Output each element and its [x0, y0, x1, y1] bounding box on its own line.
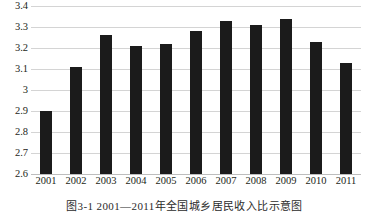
- bar-2001: [40, 111, 52, 174]
- x-axis-tick-label: 2011: [331, 176, 361, 187]
- x-axis-tick-label: 2007: [211, 176, 241, 187]
- chart-screenshot: 3.4 3.3 3.2 3.1 3 2.9 2.8 2.7 2.6 200120…: [0, 0, 369, 214]
- x-axis-tick-label: 2004: [121, 176, 151, 187]
- x-axis-tick-label: 2006: [181, 176, 211, 187]
- y-axis-tick-label: 2.6: [0, 169, 28, 180]
- bar-2006: [190, 31, 202, 174]
- x-axis-tick-label: 2008: [241, 176, 271, 187]
- bar-2010: [310, 42, 322, 174]
- y-axis-tick-label: 3.4: [0, 1, 28, 12]
- y-axis-tick-label: 2.9: [0, 106, 28, 117]
- x-axis-labels: 2001200220032004200520062007200820092010…: [31, 176, 361, 192]
- y-axis-tick-label: 2.8: [0, 127, 28, 138]
- y-axis-tick-label: 2.7: [0, 148, 28, 159]
- bar-2007: [220, 21, 232, 174]
- bar-2004: [130, 46, 142, 174]
- y-axis-tick-label: 3.1: [0, 64, 28, 75]
- bar-2008: [250, 25, 262, 174]
- y-axis-tick-label: 3: [0, 85, 28, 96]
- bar-2009: [280, 19, 292, 174]
- x-axis-tick-label: 2002: [61, 176, 91, 187]
- gridline: [31, 27, 361, 28]
- bar-2002: [70, 67, 82, 174]
- y-axis-labels: 3.4 3.3 3.2 3.1 3 2.9 2.8 2.7 2.6: [0, 0, 28, 196]
- bar-2011: [340, 63, 352, 174]
- figure-caption: 图3-1 2001—2011年全国城乡居民收入比示意图: [0, 199, 369, 214]
- gridline: [31, 6, 361, 7]
- x-axis-tick-label: 2009: [271, 176, 301, 187]
- bar-2005: [160, 44, 172, 174]
- x-axis-tick-label: 2001: [31, 176, 61, 187]
- plot-area: [31, 6, 361, 174]
- y-axis-tick-label: 3.2: [0, 43, 28, 54]
- x-axis-tick-label: 2005: [151, 176, 181, 187]
- bar-chart: 3.4 3.3 3.2 3.1 3 2.9 2.8 2.7 2.6 200120…: [0, 0, 369, 196]
- x-axis-tick-label: 2010: [301, 176, 331, 187]
- bar-2003: [100, 35, 112, 174]
- x-axis-tick-label: 2003: [91, 176, 121, 187]
- y-axis-tick-label: 3.3: [0, 22, 28, 33]
